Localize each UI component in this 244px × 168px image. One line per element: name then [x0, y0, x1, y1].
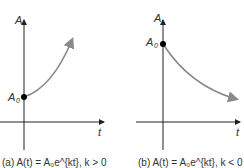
decay-x-axis-label: t — [236, 126, 240, 138]
growth-graph: A t A 0 (a) A(t) = A₀e^{kt}, k > 0 — [0, 14, 107, 168]
growth-intercept-subscript: 0 — [16, 97, 20, 104]
decay-graph: A t A 0 (b) A(t) = A₀e^{kt}, k < 0 — [136, 12, 243, 168]
decay-caption: (b) A(t) = A₀e^{kt}, k < 0 — [138, 157, 243, 168]
decay-intercept-dot — [160, 41, 166, 47]
growth-y-axis-label: A — [14, 14, 22, 26]
growth-curve — [24, 40, 72, 97]
growth-intercept-label: A — [7, 91, 15, 103]
decay-y-axis-label: A — [153, 12, 161, 24]
decay-curve — [163, 44, 236, 99]
decay-intercept-subscript: 0 — [154, 42, 158, 49]
decay-intercept-label: A — [145, 36, 153, 48]
exponential-graphs-figure: A t A 0 (a) A(t) = A₀e^{kt}, k > 0 A t A… — [0, 0, 244, 168]
growth-intercept-dot — [21, 94, 27, 100]
growth-caption: (a) A(t) = A₀e^{kt}, k > 0 — [2, 157, 107, 168]
growth-x-axis-label: t — [98, 126, 102, 138]
